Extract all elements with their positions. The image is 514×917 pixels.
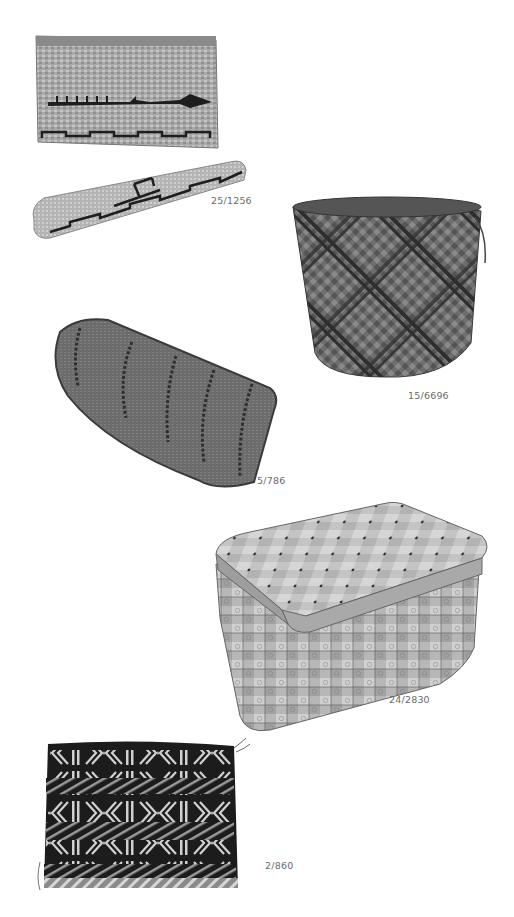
catalog-number-label: 5/786 xyxy=(257,475,285,486)
bucket-basket-image xyxy=(285,193,495,383)
catalog-number-label: 15/6696 xyxy=(408,390,449,401)
splint-box-image xyxy=(210,498,490,734)
boat-tray-image xyxy=(48,316,280,488)
basket-box-image xyxy=(30,30,270,245)
woven-bag-image xyxy=(28,738,258,898)
catalog-number-label: 25/1256 xyxy=(211,195,252,206)
catalog-number-label: 24/2830 xyxy=(389,694,430,705)
catalog-number-label: 2/860 xyxy=(265,860,293,871)
